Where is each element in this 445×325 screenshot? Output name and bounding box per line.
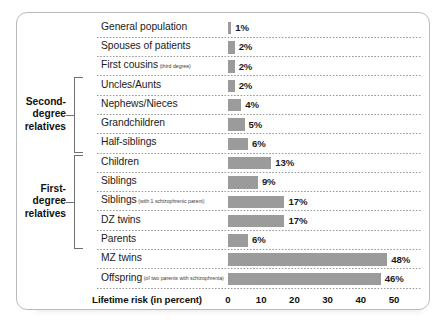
bracket-tick bbox=[66, 115, 74, 116]
row-label-text: General population bbox=[101, 21, 187, 32]
bar bbox=[228, 22, 231, 34]
bar-value-label: 5% bbox=[249, 119, 263, 130]
row-label-text: Children bbox=[101, 156, 139, 167]
group-label-line: relatives bbox=[25, 208, 66, 220]
group-label-line: degree bbox=[25, 196, 66, 208]
row-label: Uncles/Aunts bbox=[101, 79, 161, 90]
x-axis-tick-label: 10 bbox=[256, 294, 267, 305]
table-row: MZ twins48% bbox=[17, 250, 431, 269]
table-row: First cousins(third degree)2% bbox=[17, 57, 431, 76]
bar bbox=[228, 196, 284, 208]
row-label: Siblings bbox=[101, 175, 137, 186]
row-label: General population bbox=[101, 21, 187, 32]
bar-value-label: 17% bbox=[288, 215, 307, 226]
row-label-text: Uncles/Aunts bbox=[101, 79, 161, 90]
bar bbox=[228, 99, 241, 111]
chart-card: General population1%Spouses of patients2… bbox=[16, 12, 430, 310]
row-label: MZ twins bbox=[101, 252, 142, 263]
bar-value-label: 2% bbox=[239, 80, 253, 91]
x-axis-tick-label: 30 bbox=[322, 294, 333, 305]
bar bbox=[228, 273, 381, 285]
row-label-subtext: (with 1 schizophrenic parent) bbox=[138, 198, 204, 204]
group-label: Second-degreerelatives bbox=[25, 96, 66, 133]
bar-value-label: 1% bbox=[235, 22, 249, 33]
bar bbox=[228, 118, 245, 130]
row-label: Offspring(of two parents with schizophre… bbox=[101, 272, 224, 283]
row-label-subtext: (third degree) bbox=[160, 63, 191, 69]
chart-canvas: General population1%Spouses of patients2… bbox=[0, 0, 445, 325]
bar-value-label: 6% bbox=[252, 234, 266, 245]
row-label-text: DZ twins bbox=[101, 214, 141, 225]
row-label-text: Parents bbox=[101, 233, 136, 244]
x-axis: Lifetime risk (in percent) 01020304050 bbox=[17, 290, 431, 310]
x-axis-tick-label: 50 bbox=[389, 294, 400, 305]
bar bbox=[228, 60, 235, 72]
bar-value-label: 4% bbox=[245, 99, 259, 110]
bar bbox=[228, 41, 235, 53]
row-label-text: Siblings bbox=[101, 194, 137, 205]
bar bbox=[228, 253, 387, 265]
bar bbox=[228, 176, 258, 188]
group-label-line: Second- bbox=[25, 96, 66, 108]
table-row: General population1% bbox=[17, 19, 431, 38]
bar-value-label: 13% bbox=[275, 157, 294, 168]
bar-value-label: 9% bbox=[262, 176, 276, 187]
group-label-line: relatives bbox=[25, 121, 66, 133]
group-label: First-degreerelatives bbox=[25, 183, 66, 220]
bar-value-label: 2% bbox=[239, 41, 253, 52]
row-label: Children bbox=[101, 156, 139, 167]
row-label: Parents bbox=[101, 233, 136, 244]
table-row: Spouses of patients2% bbox=[17, 38, 431, 57]
row-label: Half-siblings bbox=[101, 136, 156, 147]
row-label: Grandchildren bbox=[101, 117, 165, 128]
row-label-subtext: (of two parents with schizophrenia) bbox=[144, 275, 224, 281]
bar bbox=[228, 215, 284, 227]
bar-value-label: 48% bbox=[391, 254, 410, 265]
row-label: Nephews/Nieces bbox=[101, 98, 178, 109]
row-label-text: Half-siblings bbox=[101, 136, 156, 147]
bar-value-label: 2% bbox=[239, 61, 253, 72]
table-row: Offspring(of two parents with schizophre… bbox=[17, 269, 431, 288]
x-axis-tick-label: 40 bbox=[355, 294, 366, 305]
group-label-line: First- bbox=[25, 183, 66, 195]
row-label-text: Nephews/Nieces bbox=[101, 98, 178, 109]
row-label: Siblings(with 1 schizophrenic parent) bbox=[101, 194, 205, 205]
x-axis-title: Lifetime risk (in percent) bbox=[92, 294, 202, 305]
bar bbox=[228, 234, 248, 246]
row-label-text: First cousins bbox=[101, 59, 158, 70]
group-label-line: degree bbox=[25, 109, 66, 121]
bar-value-label: 6% bbox=[252, 138, 266, 149]
bar bbox=[228, 157, 271, 169]
bar-value-label: 17% bbox=[288, 196, 307, 207]
row-label-text: Offspring bbox=[101, 272, 142, 283]
x-axis-tick-label: 20 bbox=[289, 294, 300, 305]
row-label-text: Grandchildren bbox=[101, 117, 165, 128]
x-axis-tick-label: 0 bbox=[225, 294, 230, 305]
row-label: Spouses of patients bbox=[101, 40, 191, 51]
bracket-tick bbox=[66, 202, 74, 203]
row-label-text: Siblings bbox=[101, 175, 137, 186]
row-label: First cousins(third degree) bbox=[101, 59, 191, 70]
row-label-text: MZ twins bbox=[101, 252, 142, 263]
bar bbox=[228, 138, 248, 150]
row-label: DZ twins bbox=[101, 214, 141, 225]
row-label-text: Spouses of patients bbox=[101, 40, 191, 51]
row-separator bbox=[97, 288, 421, 289]
bar-value-label: 46% bbox=[385, 273, 404, 284]
bar bbox=[228, 80, 235, 92]
bracket-line bbox=[74, 77, 83, 152]
bracket-line bbox=[74, 155, 83, 250]
